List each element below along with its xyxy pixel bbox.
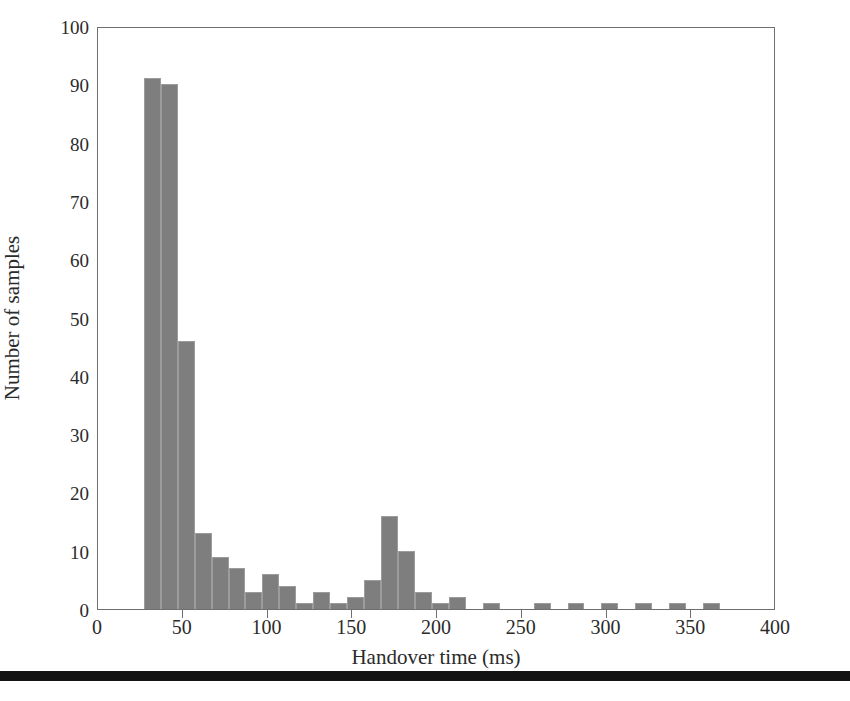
bars-container: [98, 28, 774, 609]
plot-area: [97, 27, 775, 610]
x-tick-label: 350: [675, 617, 705, 637]
histogram-bar: [262, 574, 279, 609]
x-tick-label: 150: [336, 617, 366, 637]
histogram-bar: [195, 533, 212, 609]
histogram-bar: [568, 603, 585, 609]
y-tick-label: 100: [61, 18, 90, 37]
histogram-bar: [313, 592, 330, 609]
histogram-bar: [296, 603, 313, 609]
histogram-bar: [669, 603, 686, 609]
histogram-bar: [432, 603, 449, 609]
histogram-bar: [229, 568, 246, 609]
y-tick-label: 10: [70, 542, 89, 561]
histogram-bar: [161, 84, 178, 609]
y-tick-label: 30: [70, 426, 89, 445]
histogram-bar: [398, 551, 415, 609]
histogram-bar: [245, 592, 262, 609]
y-tick-label: 40: [70, 367, 89, 386]
y-axis-tick-labels: 0102030405060708090100: [0, 0, 89, 701]
histogram-bar: [347, 597, 364, 609]
histogram-bar: [534, 603, 551, 609]
histogram-figure: Number of samples 0102030405060708090100…: [0, 0, 850, 701]
x-tick-label: 100: [252, 617, 282, 637]
histogram-bar: [449, 597, 466, 609]
y-tick-label: 80: [70, 134, 89, 153]
x-axis-title: Handover time (ms): [351, 645, 520, 670]
y-tick-label: 20: [70, 484, 89, 503]
histogram-bar: [601, 603, 618, 609]
histogram-bar: [483, 603, 500, 609]
y-tick-label: 50: [70, 309, 89, 328]
histogram-bar: [279, 586, 296, 609]
histogram-bar: [635, 603, 652, 609]
y-tick-label: 60: [70, 251, 89, 270]
y-tick-label: 90: [70, 76, 89, 95]
histogram-bar: [330, 603, 347, 609]
x-tick-label: 0: [92, 617, 102, 637]
y-tick-label: 0: [80, 601, 90, 620]
y-tick-label: 70: [70, 192, 89, 211]
x-tick-label: 250: [506, 617, 536, 637]
x-tick-label: 200: [421, 617, 451, 637]
x-tick-label: 400: [760, 617, 790, 637]
histogram-bar: [703, 603, 720, 609]
page-footer-rule: [0, 671, 850, 681]
histogram-bar: [178, 341, 195, 609]
x-tick-label: 50: [172, 617, 192, 637]
x-tick-label: 300: [591, 617, 621, 637]
histogram-bar: [144, 78, 161, 609]
histogram-bar: [381, 516, 398, 609]
histogram-bar: [364, 580, 381, 609]
histogram-bar: [415, 592, 432, 609]
histogram-bar: [212, 557, 229, 609]
